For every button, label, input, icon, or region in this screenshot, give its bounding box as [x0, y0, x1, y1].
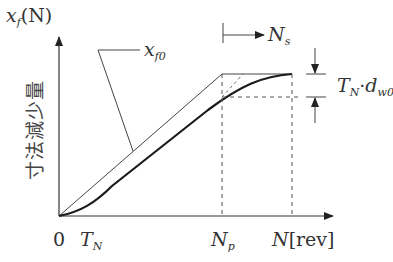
- offset-d: d: [365, 74, 377, 96]
- ns-sub: s: [285, 35, 291, 48]
- y-title-main: x: [6, 4, 17, 26]
- xf0-line: [59, 74, 292, 216]
- y-title-suffix: (N): [21, 4, 52, 26]
- xf0-main: x: [144, 38, 155, 60]
- origin-label: 0: [53, 228, 65, 250]
- offset-T: T: [337, 74, 350, 96]
- np-sub: p: [228, 240, 235, 253]
- y-title-sub: f: [17, 16, 21, 29]
- xf-curve: [59, 74, 292, 216]
- offset-d-sub: w0: [378, 86, 393, 99]
- x-end-main: N: [272, 228, 289, 250]
- xf0-label: xf0: [144, 38, 166, 60]
- y-axis-title: xf(N): [6, 4, 52, 26]
- offset-T-sub: N: [350, 86, 360, 99]
- offset-label: TN·dw0: [337, 74, 393, 96]
- ns-label: Ns: [268, 23, 290, 45]
- x-end-suffix: [rev]: [289, 228, 335, 250]
- xf0-sub: f0: [155, 50, 166, 63]
- xf0-leader: [98, 50, 140, 151]
- wear-diagram: xf(N) 寸法減少量 xf0 Ns TN·dw0 0 TN Np N[rev]: [0, 0, 393, 262]
- tn-label: TN: [80, 228, 102, 250]
- tn-main: T: [80, 228, 93, 250]
- ns-main: N: [268, 23, 285, 45]
- y-axis-label-jp: 寸法減少量: [20, 80, 47, 180]
- np-main: N: [211, 228, 228, 250]
- diagram-canvas: [0, 0, 393, 262]
- x-axis-end-label: N[rev]: [272, 228, 335, 250]
- tn-sub: N: [93, 240, 103, 253]
- np-label: Np: [211, 228, 235, 250]
